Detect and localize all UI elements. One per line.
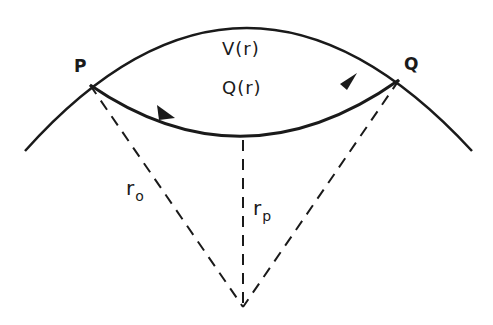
radius-line-q — [243, 80, 399, 307]
q-function-label: Q(r) — [222, 79, 262, 97]
trajectory-arrow-left-icon — [157, 105, 175, 120]
trajectory-arrow-right-icon — [340, 73, 357, 90]
radius-label-ro-base: r — [126, 176, 134, 200]
potential-label: V(r) — [222, 40, 260, 58]
radius-label-ro: ro — [126, 178, 144, 203]
radius-label-ro-sub: o — [135, 188, 144, 204]
radius-label-rp-sub: p — [262, 208, 271, 224]
point-label-p: P — [74, 58, 86, 75]
radius-label-rp: rp — [253, 198, 271, 223]
point-label-q: Q — [404, 56, 418, 73]
radius-label-rp-base: r — [253, 196, 261, 220]
